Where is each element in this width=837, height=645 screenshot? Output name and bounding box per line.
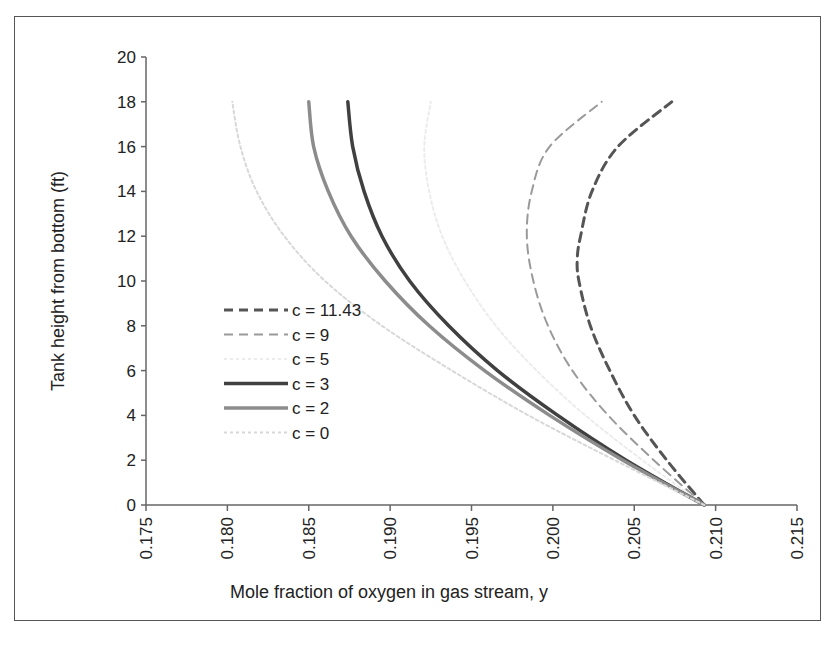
y-tick-label: 12	[117, 227, 136, 246]
series-line	[424, 102, 704, 505]
x-tick-label: 0.190	[381, 517, 400, 560]
y-tick-label: 14	[117, 182, 136, 201]
series-line	[527, 102, 704, 505]
x-tick-label: 0.195	[463, 517, 482, 560]
legend-label: c = 3	[292, 375, 329, 394]
legend-label: c = 0	[292, 424, 329, 443]
legend-label: c = 9	[292, 326, 329, 345]
y-tick-label: 16	[117, 138, 136, 157]
y-tick-label: 18	[117, 93, 136, 112]
y-axis-title: Tank height from bottom (ft)	[48, 171, 68, 391]
y-tick-label: 2	[127, 451, 136, 470]
x-tick-label: 0.185	[300, 517, 319, 560]
series-line	[309, 102, 704, 505]
axes: 024681012141618200.1750.1800.1850.1900.1…	[117, 48, 807, 560]
y-tick-label: 20	[117, 48, 136, 67]
y-tick-label: 0	[127, 496, 136, 515]
x-tick-label: 0.200	[544, 517, 563, 560]
y-tick-label: 6	[127, 362, 136, 381]
x-tick-label: 0.180	[218, 517, 237, 560]
x-axis-title: Mole fraction of oxygen in gas stream, y	[230, 582, 548, 602]
legend: c = 11.43c = 9c = 5c = 3c = 2c = 0	[224, 301, 361, 443]
y-tick-label: 10	[117, 272, 136, 291]
legend-label: c = 5	[292, 350, 329, 369]
legend-label: c = 11.43	[292, 301, 361, 320]
y-tick-label: 4	[127, 406, 136, 425]
line-chart: 024681012141618200.1750.1800.1850.1900.1…	[0, 0, 837, 645]
series-line	[348, 102, 704, 505]
x-tick-label: 0.215	[788, 517, 807, 560]
x-tick-label: 0.175	[137, 517, 156, 560]
x-tick-label: 0.205	[625, 517, 644, 560]
legend-label: c = 2	[292, 399, 329, 418]
y-tick-label: 8	[127, 317, 136, 336]
x-tick-label: 0.210	[707, 517, 726, 560]
